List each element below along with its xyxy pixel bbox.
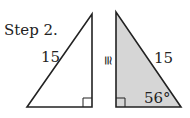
right-triangle: 15 56° bbox=[116, 12, 181, 107]
step-label: Step 2. bbox=[4, 21, 58, 39]
congruence-symbol: ≅ bbox=[101, 55, 116, 66]
right-hypotenuse-label: 15 bbox=[154, 49, 173, 67]
congruent-triangles-diagram: Step 2. 15 ≅ 15 56° bbox=[0, 0, 190, 118]
left-hypotenuse-label: 15 bbox=[41, 48, 60, 66]
angle-label: 56° bbox=[144, 89, 171, 107]
